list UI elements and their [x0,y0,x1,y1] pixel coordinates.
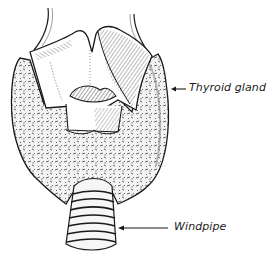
windpipe-label: Windpipe [174,220,226,233]
anatomy-figure: Thyroid gland Windpipe [0,0,277,258]
thyroid-gland-label: Thyroid gland [189,81,266,94]
windpipe [66,179,116,251]
